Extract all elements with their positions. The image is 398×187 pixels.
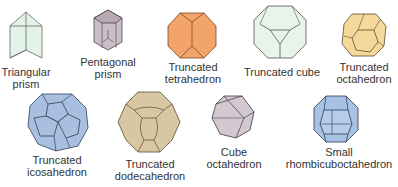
truncated-icosahedron-shape <box>26 92 90 152</box>
truncated-icosahedron-label: Truncated icosahedron <box>22 154 92 178</box>
pentagonal-prism-label: Pentagonal prism <box>78 56 138 80</box>
label-line1: Cube <box>204 146 264 158</box>
cube-octahedron-shape <box>210 94 256 140</box>
truncated-cube-shape <box>252 4 308 60</box>
label-line1: Small <box>284 146 394 158</box>
truncated-octahedron-label: Truncated octahedron <box>334 61 394 85</box>
label-line1: Truncated cube <box>240 66 324 78</box>
label-line1: Triangular <box>0 66 52 78</box>
label-line1: Truncated <box>114 158 186 170</box>
label-line1: Truncated <box>160 61 226 73</box>
label-line1: Truncated <box>22 154 92 166</box>
pentagonal-prism-shape <box>90 8 126 52</box>
triangular-prism-label: Triangular prism <box>0 66 52 90</box>
label-line2: octahedron <box>204 158 264 170</box>
label-line2: prism <box>78 68 138 80</box>
small-rhombicuboctahedron-label: Small rhombicuboctahedron <box>284 146 394 170</box>
cube-octahedron-label: Cube octahedron <box>204 146 264 170</box>
truncated-octahedron-shape <box>340 12 388 58</box>
label-line2: icosahedron <box>22 166 92 178</box>
label-line2: tetrahedron <box>160 73 226 85</box>
triangular-prism-shape <box>4 10 48 62</box>
label-line2: dodecahedron <box>114 170 186 182</box>
truncated-cube-label: Truncated cube <box>240 66 324 78</box>
label-line1: Pentagonal <box>78 56 138 68</box>
truncated-tetrahedron-label: Truncated tetrahedron <box>160 61 226 85</box>
label-line2: rhombicuboctahedron <box>284 158 394 170</box>
label-line1: Truncated <box>334 61 394 73</box>
label-line2: octahedron <box>334 73 394 85</box>
truncated-dodecahedron-label: Truncated dodecahedron <box>114 158 186 182</box>
label-line2: prism <box>0 78 52 90</box>
truncated-tetrahedron-shape <box>166 12 218 60</box>
small-rhombicuboctahedron-shape <box>312 94 360 144</box>
truncated-dodecahedron-shape <box>116 90 182 154</box>
